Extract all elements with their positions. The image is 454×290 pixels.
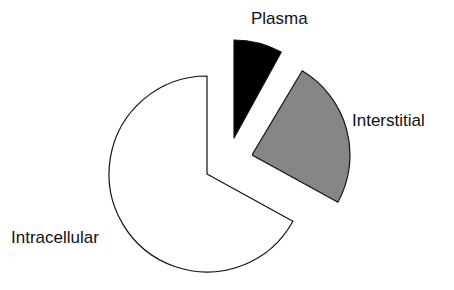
label-intracellular: Intracellular: [11, 228, 99, 248]
slice-intracellular: [109, 76, 293, 272]
slice-interstitial: [252, 71, 350, 202]
label-interstitial: Interstitial: [352, 111, 425, 131]
label-plasma: Plasma: [251, 9, 308, 29]
